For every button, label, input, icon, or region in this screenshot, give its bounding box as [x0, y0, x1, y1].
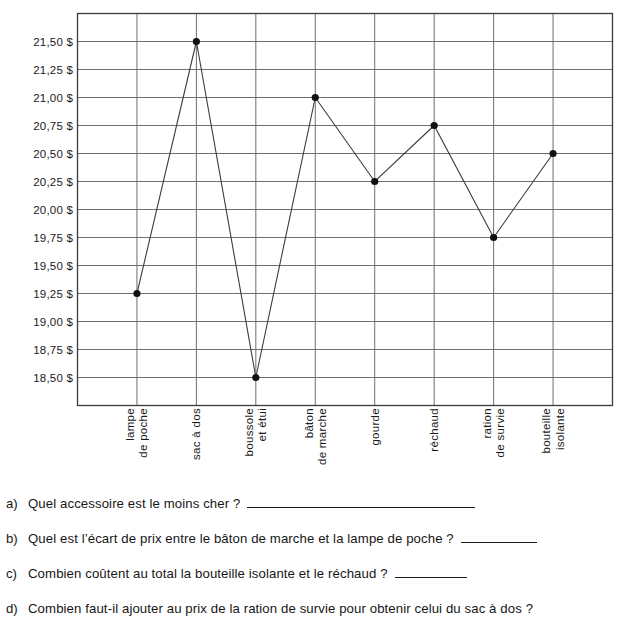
y-axis-tick-label: 19,50 $ [7, 260, 73, 272]
question-row: a)Quel accessoire est le moins cher ? [0, 496, 631, 531]
x-axis-tick-label: boussoleet étui [226, 408, 286, 492]
question-marker: a) [6, 496, 28, 511]
x-axis-tick-label-line: isolante [554, 408, 566, 450]
x-axis-tick-label-line: bâton [303, 408, 315, 438]
question-row: b)Quel est l’écart de prix entre le bâto… [0, 531, 631, 566]
y-axis-tick-label: 19,75 $ [7, 232, 73, 244]
y-axis-tick-label: 21,00 $ [7, 92, 73, 104]
x-axis-tick-label-line: de marche [316, 408, 328, 465]
y-axis-tick-label: 20,25 $ [7, 176, 73, 188]
x-axis-tick-label-line: de poche [137, 408, 149, 458]
answer-blank[interactable] [247, 496, 475, 508]
x-axis-tick-label-line: de survie [494, 408, 506, 457]
x-axis-tick-label: lampede poche [107, 408, 167, 492]
x-axis-tick-label: bâtonde marche [285, 408, 345, 492]
horizontal-gridlines [78, 14, 613, 406]
y-axis-tick-label: 21,25 $ [7, 64, 73, 76]
answer-blank[interactable] [461, 531, 537, 543]
y-axis-tick-label: 20,00 $ [7, 204, 73, 216]
price-line-chart: 21,50 $21,25 $21,00 $20,75 $20,50 $20,25… [0, 0, 631, 492]
x-axis-tick-label: sac à dos [166, 408, 226, 492]
y-axis-tick-label: 19,00 $ [7, 316, 73, 328]
x-axis-tick-label-line: lampe [124, 408, 136, 441]
y-axis-tick-label: 20,50 $ [7, 148, 73, 160]
question-text: Combien faut-il ajouter au prix de la ra… [28, 601, 533, 616]
question-row: d)Combien faut-il ajouter au prix de la … [0, 601, 631, 636]
data-point [133, 290, 140, 297]
x-axis-tick-label-line: réchaud [428, 408, 440, 452]
x-axis-tick-label-line: ration [481, 408, 493, 439]
x-axis-tick-label-line: gourde [369, 408, 381, 446]
question-text: Quel accessoire est le moins cher ? [28, 496, 240, 511]
x-axis-tick-label: gourde [345, 408, 405, 492]
data-point [252, 374, 259, 381]
questions-list: a)Quel accessoire est le moins cher ?b)Q… [0, 496, 631, 636]
worksheet-page: 21,50 $21,25 $21,00 $20,75 $20,50 $20,25… [0, 0, 631, 637]
x-axis-tick-labels: lampede pochesac à dosboussoleet étuibât… [0, 408, 631, 492]
y-axis-tick-label: 19,25 $ [7, 288, 73, 300]
data-point [312, 94, 319, 101]
x-axis-tick-label-line: sac à dos [190, 408, 202, 460]
x-axis-tick-label-line: et étui [256, 408, 268, 441]
x-axis-tick-label-line: bouteille [540, 408, 552, 454]
y-axis-tick-label: 21,50 $ [7, 36, 73, 48]
question-text: Combien coûtent au total la bouteille is… [28, 566, 388, 581]
y-axis-tick-label: 18,75 $ [7, 344, 73, 356]
y-axis-tick-label: 20,75 $ [7, 120, 73, 132]
data-point [549, 150, 556, 157]
answer-blank[interactable] [395, 566, 467, 578]
x-axis-tick-label-line: boussole [243, 408, 255, 456]
x-axis-tick-label: rationde survie [464, 408, 524, 492]
question-marker: b) [6, 531, 28, 546]
x-axis-tick-label: bouteilleisolante [523, 408, 583, 492]
question-marker: c) [6, 566, 28, 581]
x-axis-tick-label: réchaud [404, 408, 464, 492]
question-marker: d) [6, 601, 28, 616]
data-point [193, 38, 200, 45]
data-point [371, 178, 378, 185]
data-point [490, 234, 497, 241]
y-axis-tick-labels: 21,50 $21,25 $21,00 $20,75 $20,50 $20,25… [3, 0, 73, 420]
y-axis-tick-label: 18,50 $ [7, 372, 73, 384]
question-text: Quel est l’écart de prix entre le bâton … [28, 531, 454, 546]
data-point [431, 122, 438, 129]
question-row: c)Combien coûtent au total la bouteille … [0, 566, 631, 601]
